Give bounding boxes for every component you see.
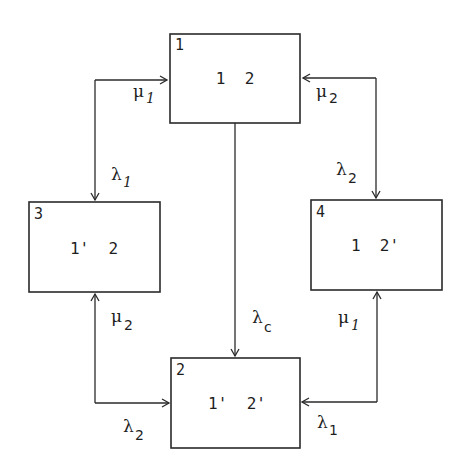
subscript: 1 xyxy=(146,90,155,106)
subscript: 2 xyxy=(135,427,144,443)
state-4-id: 4 xyxy=(316,203,325,221)
state-3-label: 1' 2 xyxy=(70,239,118,258)
state-2: 2 1' 2' xyxy=(171,358,300,448)
subscript: 1 xyxy=(123,174,132,190)
rate-label-lambda1-bottom: λ 1 xyxy=(317,412,338,438)
state-3-id: 3 xyxy=(34,205,43,223)
rate-label-lambda1-left: λ 1 xyxy=(111,164,132,190)
lambda-symbol: λ xyxy=(336,159,347,179)
subscript: 1 xyxy=(351,317,360,333)
lambda-symbol: λ xyxy=(252,307,263,327)
state-3: 3 1' 2 xyxy=(29,202,160,292)
subscript: 2 xyxy=(329,90,338,106)
state-2-label: 1' 2' xyxy=(208,394,266,413)
mu-symbol: μ xyxy=(111,306,122,326)
lambda-symbol: λ xyxy=(123,416,134,436)
subscript: 1 xyxy=(329,422,338,438)
mu-symbol: μ xyxy=(133,81,144,101)
subscript: 2 xyxy=(348,170,357,186)
mu-symbol: μ xyxy=(316,81,327,101)
state-1-id: 1 xyxy=(175,36,184,54)
subscript: c xyxy=(264,319,272,335)
lambda-symbol: λ xyxy=(317,412,328,432)
rate-label-mu2-top: μ 2 xyxy=(316,81,338,106)
rate-label-mu1-top: μ 1 xyxy=(133,81,155,106)
state-2-id: 2 xyxy=(176,361,185,379)
state-diagram: 1 1 2 2 1' 2' 3 1' 2 4 1 2' μ 1 λ 1 μ 2 … xyxy=(0,0,473,471)
rate-label-mu1-bottom: μ 1 xyxy=(338,307,360,333)
mu-symbol: μ xyxy=(338,307,349,327)
lambda-symbol: λ xyxy=(111,164,122,184)
state-1-label: 1 2 xyxy=(216,69,255,88)
state-1: 1 1 2 xyxy=(170,34,300,123)
rate-label-mu2-bottom: μ 2 xyxy=(111,306,133,333)
rate-label-lambda2-right: λ 2 xyxy=(336,159,357,186)
subscript: 2 xyxy=(124,317,133,333)
state-4: 4 1 2' xyxy=(311,200,442,290)
state-4-label: 1 2' xyxy=(351,236,399,255)
rate-label-lambda2-bottom: λ 2 xyxy=(123,416,144,443)
rate-label-lambda-c: λ c xyxy=(252,307,272,335)
